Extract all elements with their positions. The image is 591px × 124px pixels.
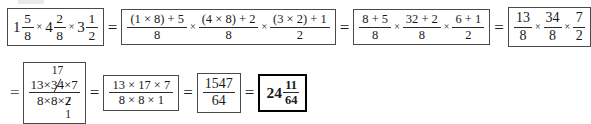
equals-sign: = (86, 84, 104, 101)
multiplication-sign: × (44, 77, 51, 92)
fraction: (1 × 8) + 5 8 (127, 12, 187, 43)
numerator: (3 × 2) + 1 (270, 12, 330, 27)
numerator: 1 (86, 11, 97, 27)
numerator: 5 (22, 11, 33, 27)
numerator: 7 (574, 10, 585, 27)
step-5-cancellation: 13×1734×7 8×8×21 (23, 62, 86, 124)
fraction: 13×1734×7 8×8×21 (29, 65, 80, 121)
whole-part: 3 (77, 20, 86, 35)
whole-part: 1 (13, 20, 22, 35)
step-4-improper-fractions: 13 8 × 34 8 × 7 2 (508, 7, 591, 47)
fraction: 32 + 2 8 (403, 12, 441, 43)
struck-value-34: 34 (51, 77, 64, 92)
equals-sign: = (490, 19, 508, 36)
equals-sign: = (336, 19, 354, 36)
denominator-product: 8×8×21 (37, 93, 71, 108)
fraction: 7 2 (573, 10, 585, 44)
cancelled-factor-34: 1734 (51, 77, 64, 92)
denominator: 2 (86, 28, 97, 44)
denominator: 64 (210, 93, 228, 110)
solution-row-2: = 13×1734×7 8×8×21 = 13 × 17 × 7 8 × 8 ×… (10, 62, 307, 124)
denominator: 8 (369, 28, 381, 43)
scan-artifact (18, 0, 44, 4)
denominator: 8 (547, 28, 558, 45)
cancelled-factor-2: 21 (65, 93, 72, 108)
numerator: 13×1734×7 (29, 65, 80, 92)
denominator: 64 (283, 93, 300, 108)
denominator: 8×8×21 (35, 93, 73, 120)
fraction: (4 × 8) + 2 8 (199, 12, 259, 43)
numerator: 13 × 17 × 7 (109, 78, 173, 93)
fraction-part: 5 8 (22, 11, 34, 44)
numerator: 1547 (203, 76, 235, 93)
multiplication-sign: × (441, 22, 453, 32)
numerator: 13 (514, 10, 532, 27)
step-2-improper-conversion: (1 × 8) + 5 8 × (4 × 8) + 2 8 × (3 × 2) … (121, 9, 335, 46)
fraction: 13 × 17 × 7 8 × 8 × 1 (109, 78, 173, 109)
denominator: 2 (462, 28, 474, 43)
denominator: 8 (54, 28, 65, 44)
numerator: 2 (54, 11, 65, 27)
numerator-factor-3: 7 (71, 77, 78, 92)
reduced-value-1: 1 (65, 109, 71, 121)
step-6-after-cancellation: 13 × 17 × 7 8 × 8 × 1 (103, 75, 179, 112)
multiplication-sign: × (258, 22, 270, 32)
numerator: 34 (544, 10, 562, 27)
fraction-part: 2 8 (54, 11, 66, 44)
struck-value-2: 2 (65, 93, 72, 108)
solution-row-1: 1 5 8 × 4 2 8 × 3 1 (7, 7, 591, 47)
multiplication-sign: × (34, 22, 46, 32)
numerator-product: 13×1734×7 (31, 77, 78, 92)
fraction: (3 × 2) + 1 2 (270, 12, 330, 43)
mixed-number-term: 1 5 8 (13, 11, 34, 44)
multiplication-sign: × (532, 22, 544, 32)
final-mixed-number: 24 11 64 (266, 78, 299, 109)
numerator-factor-1: 13 (31, 77, 44, 92)
numerator: 6 + 1 (452, 12, 484, 27)
multiplication-sign: × (66, 22, 78, 32)
denominator: 2 (574, 28, 585, 45)
step-3-products-evaluated: 8 + 5 8 × 32 + 2 8 × 6 + 1 2 (353, 9, 490, 46)
numerator: 32 + 2 (403, 12, 441, 27)
denominator: 8 (517, 28, 528, 45)
reduced-value-17: 17 (52, 65, 64, 77)
fraction: 1547 64 (203, 76, 235, 110)
step-8-final-answer: 24 11 64 (258, 74, 307, 113)
multiplication-sign: × (562, 22, 574, 32)
step-7-improper-result: 1547 64 (197, 73, 241, 113)
fraction: 8 + 5 8 (359, 12, 391, 43)
fraction-part: 1 2 (86, 11, 98, 44)
denominator: 8 (222, 28, 234, 43)
numerator: (1 × 8) + 5 (127, 12, 187, 27)
denominator: 8 (151, 28, 163, 43)
fraction-part: 11 64 (283, 78, 300, 109)
equals-sign: = (241, 84, 259, 101)
fraction: 6 + 1 2 (452, 12, 484, 43)
denominator: 2 (294, 28, 306, 43)
multiplication-sign: × (187, 22, 199, 32)
numerator: (4 × 8) + 2 (199, 12, 259, 27)
equals-sign: = (179, 84, 197, 101)
equals-sign: = (10, 84, 23, 101)
denominator: 8 × 8 × 1 (116, 93, 167, 108)
multiplication-sign: × (44, 93, 51, 108)
multiplication-sign: × (391, 22, 403, 32)
denominator: 8 (22, 28, 33, 44)
mixed-number-term: 3 1 2 (77, 11, 98, 44)
mixed-number-term: 4 2 8 (45, 11, 66, 44)
fraction: 34 8 (544, 10, 562, 44)
equals-sign: = (104, 19, 122, 36)
numerator: 8 + 5 (359, 12, 391, 27)
multiplication-sign: × (57, 93, 64, 108)
fraction: 13 8 (514, 10, 532, 44)
denominator: 8 (416, 28, 428, 43)
whole-part: 24 (266, 85, 283, 101)
whole-part: 4 (45, 20, 54, 35)
numerator: 11 (283, 78, 299, 93)
step-1-original-expression: 1 5 8 × 4 2 8 × 3 1 (7, 8, 104, 47)
